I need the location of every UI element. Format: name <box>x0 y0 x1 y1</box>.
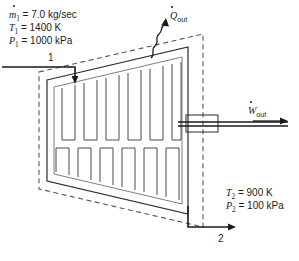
outlet-state-block: T2 = 900 K P2 = 100 kPa <box>226 186 284 212</box>
lower-blade-row <box>56 148 179 200</box>
shaft-hub <box>186 115 218 132</box>
outlet-pressure-value: = 100 kPa <box>236 200 284 211</box>
upper-blade <box>172 62 181 140</box>
lower-blade <box>100 148 113 185</box>
outlet-arrowhead <box>228 224 236 231</box>
inlet-state-block: m1 = 7.0 kg/sec T1 = 1400 K P1 = 1000 kP… <box>9 8 77 47</box>
outlet-temperature-symbol: T2 <box>226 187 235 198</box>
mass-flow-value: = 7.0 kg/sec <box>20 9 77 20</box>
lower-blade <box>144 148 157 195</box>
outlet-temperature-row: T2 = 900 K <box>226 186 284 199</box>
work-out-label: Wout <box>248 104 266 120</box>
outlet-flow-line <box>188 206 229 227</box>
upper-blade-row <box>62 62 181 140</box>
outlet-station-number: 2 <box>218 232 224 245</box>
heat-out-symbol: Q <box>170 9 177 22</box>
inlet-pressure-row: P1 = 1000 kPa <box>9 34 77 47</box>
turbine-figure: m1 = 7.0 kg/sec T1 = 1400 K P1 = 1000 kP… <box>0 0 299 261</box>
outlet-pressure-row: P2 = 100 kPa <box>226 199 284 212</box>
inlet-station-number: 1 <box>48 51 54 64</box>
inlet-temperature-value: = 1400 K <box>18 22 61 33</box>
lower-blade <box>56 148 69 175</box>
mass-flow-symbol: m1 <box>9 8 20 25</box>
upper-blade <box>84 80 97 140</box>
upper-blade <box>150 66 163 140</box>
work-out-subscript: out <box>256 110 266 119</box>
heat-out-subscript: out <box>177 15 187 24</box>
work-output-arrowhead <box>280 118 288 125</box>
upper-blade <box>106 75 119 140</box>
work-out-symbol: W <box>248 104 256 117</box>
upper-blade <box>128 70 141 140</box>
heat-out-label: Qout <box>170 9 187 25</box>
outlet-temperature-value: = 900 K <box>235 187 273 198</box>
heat-out-arrowhead <box>161 18 169 26</box>
lower-blade <box>78 148 91 180</box>
lower-blade <box>166 148 179 200</box>
lower-blade <box>122 148 135 190</box>
inlet-pressure-value: = 1000 kPa <box>19 35 73 46</box>
inlet-pressure-symbol: P1 <box>9 35 19 46</box>
inlet-mass-flow-row: m1 = 7.0 kg/sec <box>9 8 77 21</box>
upper-blade <box>62 85 75 140</box>
outlet-pressure-symbol: P2 <box>226 200 236 211</box>
